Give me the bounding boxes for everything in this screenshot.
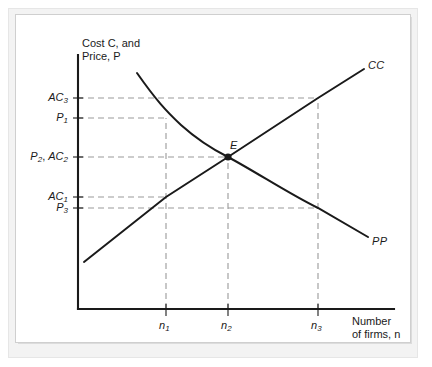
axes-group bbox=[78, 55, 394, 309]
y-tick-label-p1: P1 bbox=[16, 111, 68, 124]
x-tick-label-n1: n1 bbox=[159, 319, 170, 332]
equilibrium-point-label: E bbox=[230, 139, 237, 152]
x-tick-label-n3: n3 bbox=[311, 319, 322, 332]
curve-label-cc: CC bbox=[368, 59, 385, 72]
chart-svg bbox=[16, 15, 410, 342]
y-tick-label-p3: P3 bbox=[16, 201, 68, 214]
x-tick-label-n2: n2 bbox=[221, 319, 232, 332]
equilibrium-point-marker bbox=[224, 153, 231, 160]
y-tick-label-ac3: AC3 bbox=[16, 91, 68, 104]
y-axis-title-line1: Cost C, and bbox=[82, 37, 140, 49]
y-axis-title: Cost C, and Price, P bbox=[82, 37, 140, 64]
x-axis-title: Number of firms, n bbox=[352, 315, 400, 342]
chart-plate: Cost C, and Price, P Number of firms, n … bbox=[15, 14, 411, 343]
y-axis-title-line2: Price, P bbox=[82, 50, 121, 62]
reference-lines-group bbox=[78, 98, 318, 309]
y-tick-label-p2-ac2: P2, AC2 bbox=[8, 150, 68, 163]
figure-root: Cost C, and Price, P Number of firms, n … bbox=[0, 0, 432, 367]
curve-label-pp: PP bbox=[372, 235, 387, 248]
